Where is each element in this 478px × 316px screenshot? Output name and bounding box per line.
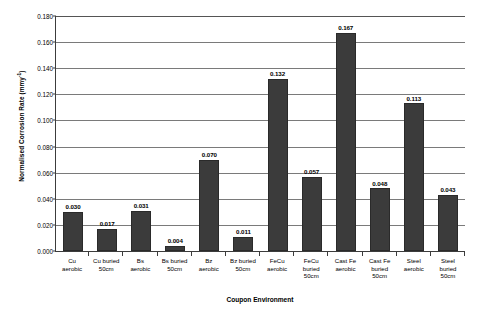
x-axis-tick-mark: [328, 252, 362, 256]
y-axis-tick-label: 0.160: [7, 39, 53, 46]
x-axis-category-label: FeCuaerobic: [260, 257, 294, 280]
bar-value-label: 0.132: [270, 70, 285, 77]
bar-value-label: 0.167: [338, 24, 353, 31]
y-axis-tick-label: 0.020: [7, 221, 53, 228]
bar-slot: 0.017: [90, 16, 124, 251]
bar-slot: 0.011: [226, 16, 260, 251]
bar-value-label: 0.070: [202, 151, 217, 158]
x-axis-tick-mark: [192, 252, 226, 256]
bar-slot: 0.070: [192, 16, 226, 251]
y-axis-tick-label: 0.080: [7, 143, 53, 150]
x-axis-tick-mark: [363, 252, 397, 256]
x-axis-tick-mark: [123, 252, 157, 256]
bar-value-label: 0.057: [304, 168, 319, 175]
x-axis-title: Coupon Environment: [55, 296, 465, 303]
bar[interactable]: [336, 33, 356, 251]
x-axis-tick-mark: [397, 252, 431, 256]
bar[interactable]: [370, 188, 390, 251]
x-axis-category-label: Cu buried50cm: [89, 257, 123, 280]
y-axis-tick-label: 0.000: [7, 248, 53, 255]
x-axis-category-label: Bs buried50cm: [158, 257, 192, 280]
x-axis-category-label: Steelburied50cm: [431, 257, 465, 280]
x-axis-category-label: Cuaerobic: [55, 257, 89, 280]
bar[interactable]: [199, 160, 219, 251]
bar-value-label: 0.031: [134, 202, 149, 209]
y-axis-tick-label: 0.180: [7, 13, 53, 20]
x-axis-tick-mark: [226, 252, 260, 256]
y-axis-tick-label: 0.140: [7, 65, 53, 72]
bar-value-label: 0.004: [168, 237, 183, 244]
bar[interactable]: [268, 79, 288, 251]
x-axis-ticks: [55, 252, 465, 256]
bar[interactable]: [404, 103, 424, 251]
bar[interactable]: [233, 237, 253, 251]
bar-slot: 0.030: [56, 16, 90, 251]
bar[interactable]: [302, 177, 322, 251]
bar-value-label: 0.011: [236, 228, 251, 235]
x-axis-tick-mark: [89, 252, 123, 256]
bar-value-label: 0.048: [372, 180, 387, 187]
x-axis-category-label: Bzaerobic: [192, 257, 226, 280]
plot-area: 0.0000.0200.0400.0600.0800.1000.1200.140…: [55, 16, 465, 252]
bar-slot: 0.057: [295, 16, 329, 251]
x-axis-category-label: Cast Feburied50cm: [363, 257, 397, 280]
bar-slot: 0.031: [124, 16, 158, 251]
x-axis-tick-mark: [158, 252, 192, 256]
bar-slot: 0.113: [397, 16, 431, 251]
bar-value-label: 0.113: [406, 95, 421, 102]
y-axis-title-superscript: -1: [17, 73, 22, 77]
x-axis-tick-mark: [294, 252, 328, 256]
y-axis-tick-label: 0.060: [7, 169, 53, 176]
x-axis-tick-mark: [55, 252, 89, 256]
x-axis-category-label: Cast Feaerobic: [328, 257, 362, 280]
bar-value-label: 0.030: [66, 203, 81, 210]
bar[interactable]: [131, 211, 151, 251]
x-axis-category-label: Steelaerobic: [397, 257, 431, 280]
bar-slot: 0.004: [158, 16, 192, 251]
bar[interactable]: [438, 195, 458, 251]
bar-slot: 0.167: [329, 16, 363, 251]
bar-chart: Normalised Corrosion Rate (mmy-1) 0.0000…: [0, 0, 478, 316]
x-axis-tick-mark: [260, 252, 294, 256]
bar-slot: 0.048: [363, 16, 397, 251]
bar-slot: 0.132: [260, 16, 294, 251]
y-axis-tick-label: 0.120: [7, 91, 53, 98]
x-axis-category-labels: CuaerobicCu buried50cmBsaerobicBs buried…: [55, 257, 465, 280]
y-axis-tick-label: 0.040: [7, 195, 53, 202]
bar-value-label: 0.043: [440, 186, 455, 193]
bar-value-label: 0.017: [100, 220, 115, 227]
y-axis-tick-label: 0.100: [7, 117, 53, 124]
x-axis-category-label: Bz buried50cm: [226, 257, 260, 280]
x-axis-tick-mark: [431, 252, 465, 256]
bar-series: 0.0300.0170.0310.0040.0700.0110.1320.057…: [56, 16, 465, 251]
bar-slot: 0.043: [431, 16, 465, 251]
bar[interactable]: [97, 229, 117, 251]
x-axis-category-label: FeCuburied50cm: [294, 257, 328, 280]
x-axis-category-label: Bsaerobic: [123, 257, 157, 280]
bar[interactable]: [63, 212, 83, 251]
bar[interactable]: [165, 246, 185, 251]
